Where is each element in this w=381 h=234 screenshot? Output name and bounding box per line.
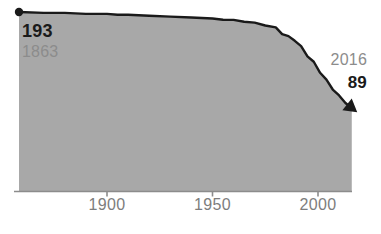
x-axis-tick-label: 2000	[300, 196, 337, 214]
area-chart: 193 1863 2016 89 190019502000	[0, 0, 381, 234]
x-axis-tick-label: 1950	[194, 196, 231, 214]
end-year-label: 2016	[331, 52, 367, 68]
x-axis-tick-label: 1900	[89, 196, 126, 214]
end-value-label: 89	[348, 74, 367, 91]
area-fill	[19, 12, 352, 191]
start-year-label: 1863	[22, 44, 58, 60]
start-value-label: 193	[22, 22, 53, 40]
start-point-marker	[15, 8, 23, 16]
